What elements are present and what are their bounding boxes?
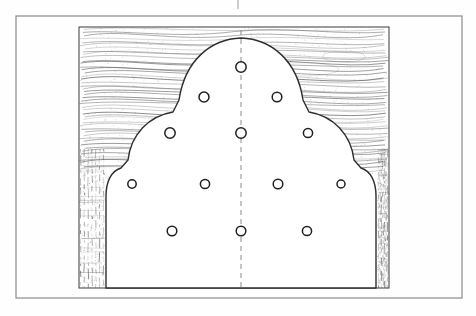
drilled-hole [167, 226, 177, 236]
technical-drawing-canvas [0, 0, 476, 316]
drilled-hole [302, 226, 311, 235]
drilled-hole [128, 180, 136, 188]
drawing-page [0, 0, 476, 316]
drilled-hole [273, 179, 283, 189]
drilled-hole [165, 128, 175, 138]
drilled-hole [200, 179, 209, 188]
drilled-hole [236, 128, 246, 138]
drilled-hole [272, 92, 282, 102]
drilled-hole [199, 92, 209, 102]
drilled-hole [236, 226, 246, 236]
drilled-hole [337, 180, 345, 188]
drilled-hole [236, 62, 246, 72]
drilled-hole [303, 128, 312, 137]
